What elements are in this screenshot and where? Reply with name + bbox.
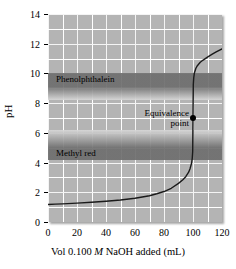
y-tick-label: 6: [0, 127, 40, 138]
y-tick-label: 2: [0, 187, 40, 198]
x-tick-label: 100: [186, 227, 201, 238]
equivalence-point-line1: Equivalence: [117, 108, 189, 118]
plot-area: PhenolphthaleinMethyl red Equivalence po…: [48, 14, 222, 222]
y-tick-label: 8: [0, 98, 40, 109]
x-axis-label-pre: Vol 0.100: [51, 246, 94, 257]
y-tick-label: 14: [0, 9, 40, 20]
x-tick-label: 120: [215, 227, 230, 238]
titration-curve-figure: pH 02468101214 PhenolphthaleinMethyl red…: [0, 0, 236, 269]
x-axis-label-post: NaOH added (mL): [103, 246, 185, 257]
y-tick-label: 10: [0, 68, 40, 79]
equivalence-point-line2: point: [117, 118, 189, 128]
x-tick-label: 40: [101, 227, 111, 238]
y-tick-label: 12: [0, 38, 40, 49]
y-tick-label: 0: [0, 217, 40, 228]
x-tick-label: 80: [159, 227, 169, 238]
equivalence-point-marker: [190, 115, 196, 121]
x-axis-label: Vol 0.100 M NaOH added (mL): [0, 246, 236, 257]
x-tick-label: 20: [72, 227, 82, 238]
x-tick-label: 60: [130, 227, 140, 238]
x-tick-label: 0: [46, 227, 51, 238]
x-axis-label-molarity: M: [94, 246, 103, 257]
y-tick-label: 4: [0, 157, 40, 168]
equivalence-point-annotation: Equivalence point: [117, 108, 189, 128]
y-tick-mark: [44, 222, 48, 223]
